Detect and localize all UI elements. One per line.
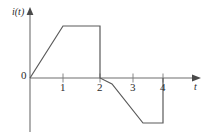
waveform-trace — [30, 26, 163, 123]
x-tick-label-4: 4 — [160, 82, 166, 93]
waveform-figure: i(t) t 0 1 2 3 4 — [0, 0, 212, 138]
plot-canvas — [0, 0, 212, 138]
x-tick-label-3: 3 — [130, 82, 136, 93]
y-axis-arrow-icon — [27, 7, 34, 15]
x-axis-label: t — [194, 82, 197, 92]
x-tick-label-1: 1 — [60, 82, 66, 93]
origin-label: 0 — [21, 70, 27, 81]
x-tick-label-2: 2 — [97, 82, 103, 93]
y-axis-label: i(t) — [12, 7, 24, 17]
